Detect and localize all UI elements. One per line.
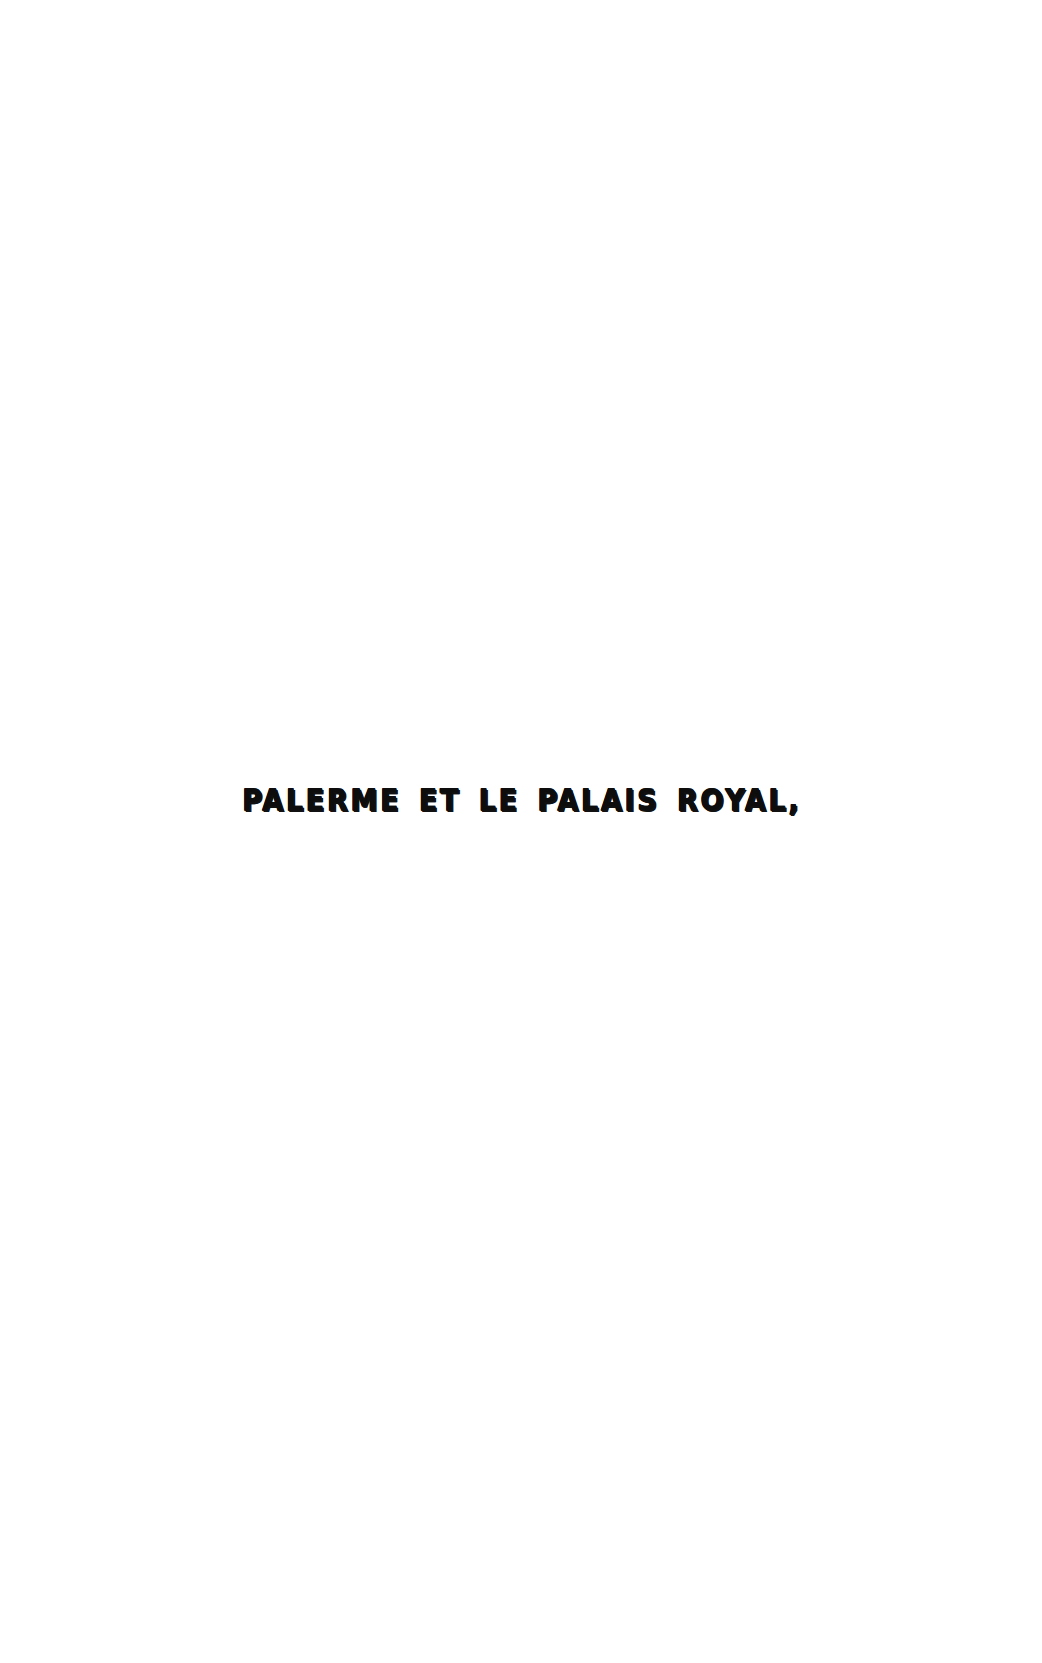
page-heading: PALERME ET LE PALAIS ROYAL, [242,785,801,814]
scanned-page: PALERME ET LE PALAIS ROYAL, [0,0,1042,1663]
heading-block: PALERME ET LE PALAIS ROYAL, [0,770,1042,830]
